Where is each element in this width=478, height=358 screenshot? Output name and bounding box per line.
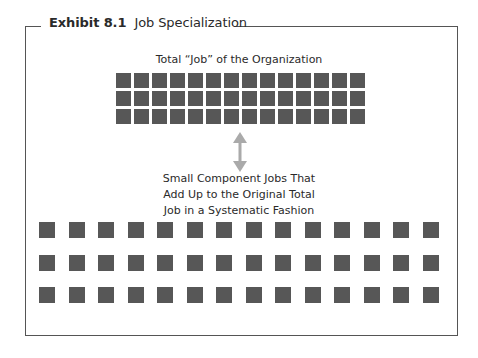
component-job-square [393, 287, 409, 303]
component-job-square [128, 222, 144, 238]
job-unit-square [296, 73, 311, 88]
job-unit-square [314, 109, 329, 124]
component-job-square [423, 255, 439, 271]
frame-top-left-segment [25, 26, 41, 27]
job-unit-square [260, 109, 275, 124]
component-job-square [275, 222, 291, 238]
component-job-square [364, 287, 380, 303]
exhibit-title-text: Job Specialization [134, 15, 247, 30]
job-unit-square [152, 91, 167, 106]
job-unit-square [242, 109, 257, 124]
job-unit-square [116, 73, 131, 88]
component-job-square [69, 222, 85, 238]
component-job-square [216, 287, 232, 303]
job-unit-square [260, 73, 275, 88]
component-job-square [246, 222, 262, 238]
component-job-square [39, 222, 55, 238]
job-unit-square [332, 109, 347, 124]
component-job-square [246, 287, 262, 303]
component-job-square [157, 255, 173, 271]
job-unit-square [350, 91, 365, 106]
job-unit-square [332, 73, 347, 88]
double-arrow-icon [232, 132, 248, 172]
job-unit-square [170, 109, 185, 124]
caption-line: Small Component Jobs That [0, 171, 478, 187]
component-jobs-grid [39, 222, 439, 303]
component-job-square [187, 287, 203, 303]
component-job-square [334, 222, 350, 238]
job-unit-square [188, 73, 203, 88]
job-unit-square [314, 73, 329, 88]
job-unit-square [116, 109, 131, 124]
job-unit-square [206, 91, 221, 106]
component-job-square [393, 222, 409, 238]
frame-top-right-segment [236, 26, 458, 27]
component-job-square [216, 222, 232, 238]
job-unit-square [188, 109, 203, 124]
job-unit-square [350, 73, 365, 88]
job-unit-square [242, 73, 257, 88]
component-job-square [423, 287, 439, 303]
component-job-square [246, 255, 262, 271]
job-unit-square [278, 73, 293, 88]
component-job-square [39, 255, 55, 271]
job-unit-square [116, 91, 131, 106]
component-job-square [305, 287, 321, 303]
component-job-square [275, 287, 291, 303]
component-job-square [98, 287, 114, 303]
component-job-square [334, 287, 350, 303]
component-job-square [364, 255, 380, 271]
component-job-square [128, 287, 144, 303]
component-job-square [98, 222, 114, 238]
job-unit-square [134, 91, 149, 106]
total-job-grid [116, 73, 365, 124]
component-job-square [364, 222, 380, 238]
component-job-square [216, 255, 232, 271]
component-job-square [334, 255, 350, 271]
component-job-square [69, 255, 85, 271]
job-unit-square [296, 109, 311, 124]
job-unit-square [134, 109, 149, 124]
exhibit-number: Exhibit 8.1 [49, 15, 126, 30]
job-unit-square [188, 91, 203, 106]
caption-line: Job in a Systematic Fashion [0, 203, 478, 219]
component-job-square [423, 222, 439, 238]
component-job-square [157, 222, 173, 238]
component-job-square [128, 255, 144, 271]
job-unit-square [350, 109, 365, 124]
job-unit-square [152, 73, 167, 88]
component-job-square [187, 222, 203, 238]
job-unit-square [206, 109, 221, 124]
job-unit-square [314, 91, 329, 106]
component-job-square [305, 222, 321, 238]
job-unit-square [134, 73, 149, 88]
job-unit-square [332, 91, 347, 106]
job-unit-square [170, 91, 185, 106]
component-job-square [98, 255, 114, 271]
job-unit-square [296, 91, 311, 106]
component-job-square [69, 287, 85, 303]
job-unit-square [278, 109, 293, 124]
component-job-square [275, 255, 291, 271]
caption-line: Add Up to the Original Total [0, 187, 478, 203]
job-unit-square [278, 91, 293, 106]
component-job-square [39, 287, 55, 303]
exhibit-title: Exhibit 8.1Job Specialization [49, 15, 247, 30]
job-unit-square [152, 109, 167, 124]
job-unit-square [170, 73, 185, 88]
total-job-label: Total “Job” of the Organization [0, 53, 478, 66]
job-unit-square [206, 73, 221, 88]
component-job-square [393, 255, 409, 271]
job-unit-square [242, 91, 257, 106]
component-jobs-caption: Small Component Jobs That Add Up to the … [0, 171, 478, 219]
component-job-square [187, 255, 203, 271]
component-job-square [157, 287, 173, 303]
job-unit-square [224, 109, 239, 124]
component-job-square [305, 255, 321, 271]
job-unit-square [224, 91, 239, 106]
job-unit-square [224, 73, 239, 88]
job-unit-square [260, 91, 275, 106]
